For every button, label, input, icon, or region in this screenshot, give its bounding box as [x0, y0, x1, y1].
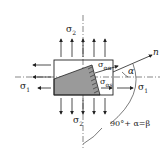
sigma1-left-label: σ1 [20, 82, 30, 93]
sigma1-right-label: σ1 [138, 83, 148, 94]
sigma2-top-label: σ2 [66, 25, 76, 36]
stress-element-diagram [0, 0, 164, 157]
normal-label: n [153, 48, 159, 57]
sigma-alpha-label: σαα [98, 61, 112, 71]
angle-relation-label: 90°+ α=β [110, 120, 150, 128]
sigma-alpha-s-label: σαs [100, 78, 113, 88]
sigma2-bottom-label: σ2 [73, 116, 83, 127]
alpha-label: α [128, 67, 134, 76]
